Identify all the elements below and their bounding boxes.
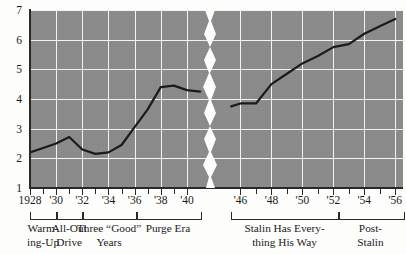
x-tick-label-1946: '46 (234, 194, 248, 207)
x-tick-label-1956: '56 (388, 194, 402, 207)
x-tick-label-1938: '38 (154, 194, 168, 207)
x-tick-label-1932: '32 (76, 194, 90, 207)
chart-figure: 1234567 1928'30'32'34'36'38'40'46'48'50'… (0, 0, 406, 254)
y-tick-label-3: 3 (16, 123, 22, 134)
x-tick-label-1928: 1928 (19, 194, 42, 207)
x-tick-label-1934: '34 (102, 194, 116, 207)
x-tick-label-1952: '52 (327, 194, 341, 207)
x-tick-label-1950: '50 (296, 194, 310, 207)
era-bracket-5 (338, 212, 405, 220)
data-line-segment-prewar (30, 86, 200, 154)
x-tick-label-1930: '30 (49, 194, 63, 207)
plot-area (30, 10, 403, 188)
x-tick-label-1940: '40 (180, 194, 194, 207)
data-line-segment-postwar (231, 19, 395, 107)
era-bracket-2 (82, 212, 138, 220)
era-bracket-4 (231, 212, 340, 220)
era-label-3: Purge Era (124, 222, 212, 236)
y-tick-label-5: 5 (16, 64, 22, 75)
era-label-5: Post- Stalin (326, 222, 406, 249)
x-tick-label-1954: '54 (358, 194, 372, 207)
y-tick-label-2: 2 (16, 153, 22, 164)
era-bracket-3 (136, 212, 202, 220)
era-bracket-1 (56, 212, 84, 220)
x-tick-label-1948: '48 (265, 194, 279, 207)
y-axis-tick-labels: 1234567 (0, 0, 28, 188)
era-bracket-0 (30, 212, 58, 220)
x-tick-label-1936: '36 (128, 194, 142, 207)
y-axis-line (29, 9, 31, 189)
y-tick-label-4: 4 (16, 94, 22, 105)
era-bracket-labels: Warm- ing-UpAll-Out DriveThree “Good” Ye… (0, 222, 406, 254)
x-axis-tick-labels: 1928'30'32'34'36'38'40'46'48'50'52'54'56 (0, 194, 406, 208)
y-tick-label-1: 1 (16, 183, 22, 194)
y-tick-label-6: 6 (16, 34, 22, 45)
data-line-layer (30, 10, 403, 188)
era-brackets (0, 212, 406, 222)
y-tick-label-7: 7 (16, 5, 22, 16)
